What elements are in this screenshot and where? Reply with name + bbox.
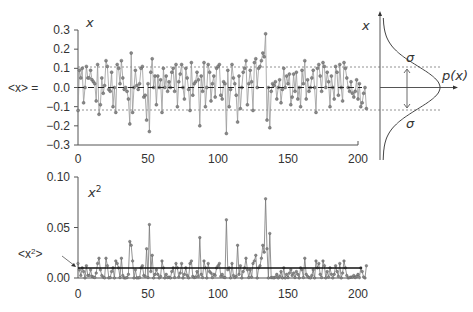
data-point <box>354 90 357 93</box>
data-point <box>162 67 165 70</box>
top-y-ticks: 0.30.20.10.0−0.1−0.2−0.3 <box>46 23 78 152</box>
data-point <box>245 257 248 260</box>
data-point <box>186 274 189 277</box>
data-point <box>84 277 87 280</box>
data-point <box>287 276 290 279</box>
data-point <box>242 270 245 273</box>
data-point <box>365 107 368 110</box>
data-point <box>322 260 325 263</box>
data-point <box>301 69 304 72</box>
data-point <box>138 276 141 279</box>
data-point <box>296 98 299 101</box>
data-point <box>312 269 315 272</box>
data-point <box>327 276 330 279</box>
data-point <box>235 94 238 97</box>
data-point <box>152 277 155 280</box>
data-point <box>106 65 109 68</box>
data-point <box>259 264 262 267</box>
data-point <box>200 75 203 78</box>
data-point <box>248 276 251 279</box>
data-point <box>255 254 258 257</box>
data-point <box>186 76 189 79</box>
bottom-series-label: x2 <box>87 184 101 200</box>
data-point <box>182 277 185 280</box>
data-point <box>249 269 252 272</box>
data-point <box>184 67 187 70</box>
data-point <box>183 273 186 276</box>
data-point <box>260 257 263 260</box>
data-point <box>134 269 137 272</box>
data-point <box>280 101 283 104</box>
data-point <box>267 277 270 280</box>
data-point <box>334 264 337 267</box>
data-point <box>151 57 154 60</box>
data-point <box>292 73 295 76</box>
data-point <box>323 65 326 68</box>
data-point <box>214 96 217 99</box>
data-point <box>310 76 313 79</box>
figure: 0.30.20.10.0−0.1−0.2−0.3 050100150200 x … <box>0 0 473 312</box>
data-point <box>243 67 246 70</box>
data-point <box>117 67 120 70</box>
data-point <box>159 78 162 81</box>
data-point <box>165 273 168 276</box>
data-point <box>218 262 221 265</box>
data-point <box>147 82 150 85</box>
data-point <box>326 71 329 74</box>
data-point <box>191 94 194 97</box>
x-tick-label: 150 <box>278 287 298 301</box>
data-point <box>105 257 108 260</box>
data-point <box>232 76 235 79</box>
data-point <box>287 82 290 85</box>
data-point <box>302 276 305 279</box>
data-point <box>150 270 153 273</box>
data-point <box>236 121 239 124</box>
data-point <box>201 90 204 93</box>
data-point <box>197 78 200 81</box>
data-point <box>151 254 154 257</box>
data-point <box>85 65 88 68</box>
data-point <box>93 82 96 85</box>
data-point <box>197 275 200 278</box>
data-point <box>94 276 97 279</box>
data-point <box>205 86 208 89</box>
mean-x-label: <x> = <box>8 81 38 95</box>
data-point <box>345 76 348 79</box>
data-point <box>246 103 249 106</box>
data-point <box>105 59 108 62</box>
y-tick-label: 0.05 <box>47 221 71 235</box>
data-point <box>332 277 335 280</box>
data-point <box>179 272 182 275</box>
x-tick-label: 50 <box>141 152 155 166</box>
data-point <box>173 90 176 93</box>
data-point <box>250 80 253 83</box>
data-point <box>206 277 209 280</box>
data-point <box>285 273 288 276</box>
data-point <box>196 71 199 74</box>
data-point <box>238 75 241 78</box>
data-point <box>112 105 115 108</box>
sigma-lower-label: σ <box>406 116 415 131</box>
data-point <box>114 111 117 114</box>
data-point <box>263 55 266 58</box>
data-point <box>341 99 344 102</box>
data-point <box>110 270 113 273</box>
top-x-ticks: 050100150200 <box>75 152 369 166</box>
top-series <box>77 32 368 135</box>
data-point <box>364 277 367 280</box>
data-point <box>225 132 228 135</box>
data-point <box>80 274 83 277</box>
data-point <box>231 63 234 66</box>
data-point <box>221 98 224 101</box>
x-tick-label: 100 <box>208 287 228 301</box>
data-point <box>82 270 85 273</box>
data-point <box>246 269 249 272</box>
data-point <box>322 61 325 64</box>
dist-p-label: p(x) <box>441 68 468 83</box>
data-point <box>298 277 301 280</box>
data-point <box>306 78 309 81</box>
y-tick-label: −0.3 <box>46 138 70 152</box>
data-point <box>109 276 112 279</box>
data-point <box>144 94 147 97</box>
data-point <box>130 52 133 55</box>
